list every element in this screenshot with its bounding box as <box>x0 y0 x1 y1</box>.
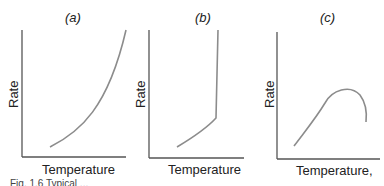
panel-c-axes <box>277 32 380 159</box>
figure-caption: Fig. 1.6 Typical ... <box>10 178 88 186</box>
panel-c-ylabel: Rate <box>262 81 277 108</box>
panel-b-label: (b) <box>195 10 211 25</box>
panel-c-curve <box>294 89 366 146</box>
panel-c-label: (c) <box>320 10 335 25</box>
rate-temperature-diagram <box>0 0 384 186</box>
panel-b-axes <box>149 30 244 158</box>
panel-c-xlabel: Temperature, <box>296 163 373 178</box>
panel-a-label: (a) <box>65 10 81 25</box>
panel-a-curve <box>50 30 126 147</box>
panel-b-ylabel: Rate <box>133 81 148 108</box>
panel-a-ylabel: Rate <box>6 81 21 108</box>
panel-a-xlabel: Temperature <box>42 162 115 177</box>
panel-b-xlabel: Temperature <box>168 162 241 177</box>
panel-a-axes <box>22 30 126 157</box>
panel-b-curve <box>177 30 218 147</box>
